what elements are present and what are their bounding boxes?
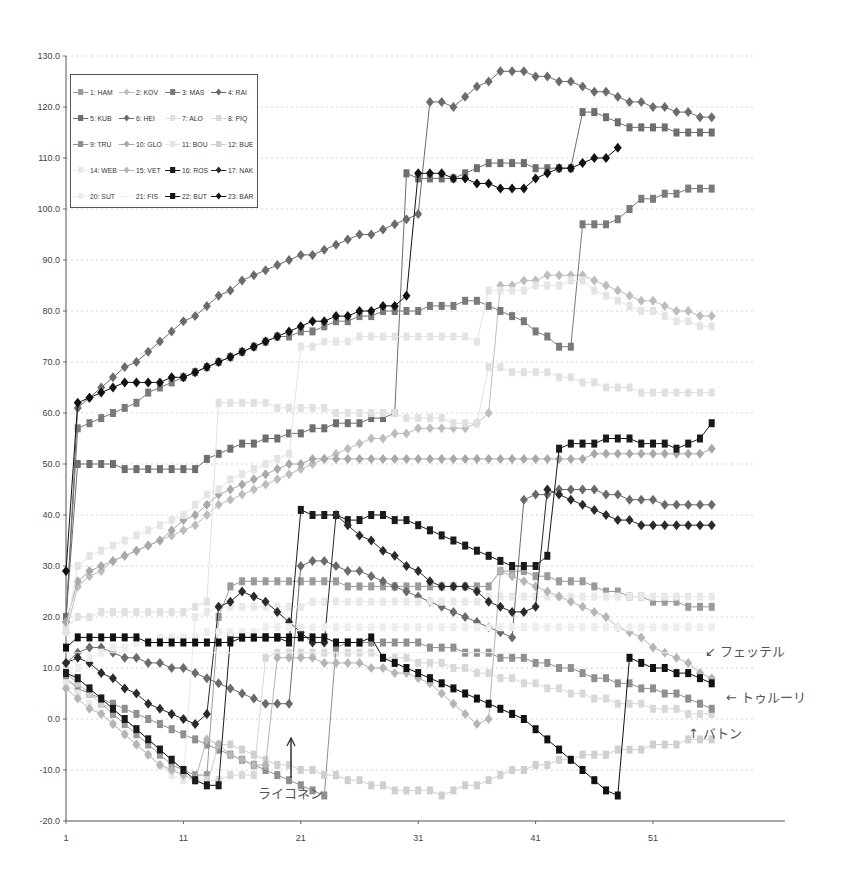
- y-tick-label: 60.0: [42, 408, 60, 418]
- x-tick-label: 1: [63, 833, 68, 843]
- y-tick-label: -20.0: [39, 816, 60, 826]
- legend-item: 10: GLO: [119, 131, 158, 157]
- y-tick-label: 40.0: [42, 510, 60, 520]
- y-tick-label: 10.0: [42, 663, 60, 673]
- x-tick-label: 51: [648, 833, 658, 843]
- series-but: [63, 633, 715, 799]
- legend-item: 23: BAR: [211, 183, 250, 209]
- legend-marker-icon: [211, 88, 226, 96]
- y-tick-label: 30.0: [42, 561, 60, 571]
- legend-item: 16: ROS: [165, 157, 204, 183]
- annotation-vettel: ↙ フェッテル: [705, 641, 785, 660]
- legend-item: 22: BUT: [165, 183, 204, 209]
- legend-marker-icon: [119, 140, 134, 148]
- y-tick-label: 50.0: [42, 459, 60, 469]
- legend-marker-icon: [211, 192, 226, 200]
- legend-item: 7: ALO: [165, 105, 204, 131]
- y-tick-label: 100.0: [37, 204, 60, 214]
- legend-label: 17: NAK: [228, 166, 253, 175]
- y-tick-label: 120.0: [37, 102, 60, 112]
- legend-marker-icon: [119, 88, 134, 96]
- legend-marker-icon: [119, 114, 134, 122]
- legend-grid: 1: HAM2: KOV3: MAS4: RAI5: KUB6: HEI7: A…: [71, 75, 257, 213]
- legend-item: 2: KOV: [119, 79, 158, 105]
- legend-label: 22: BUT: [182, 192, 207, 201]
- legend-marker-icon: [211, 114, 226, 122]
- legend-label: 10: GLO: [136, 140, 162, 149]
- legend-label: 23: BAR: [228, 192, 253, 201]
- y-tick-label: 130.0: [37, 51, 60, 61]
- legend-label: 12: BUE: [228, 140, 253, 149]
- y-tick-label: 90.0: [42, 255, 60, 265]
- series-nak: [62, 485, 716, 730]
- legend-item: 4: RAI: [211, 79, 250, 105]
- x-tick-label: 41: [531, 833, 541, 843]
- legend-label: 14: WEB: [90, 166, 117, 175]
- legend-marker-icon: [165, 114, 180, 122]
- legend-marker-icon: [73, 140, 88, 148]
- legend-marker-icon: [119, 192, 134, 200]
- legend-item: 15: VET: [119, 157, 158, 183]
- legend-marker-icon: [165, 88, 180, 96]
- legend-marker-icon: [165, 140, 180, 148]
- series-ros: [63, 419, 715, 789]
- y-tick-label: 0.0: [47, 714, 60, 724]
- y-tick-label: 80.0: [42, 306, 60, 316]
- legend-label: 21: FIS: [136, 192, 158, 201]
- legend-label: 5: KUB: [90, 114, 112, 123]
- legend-marker-icon: [73, 192, 88, 200]
- series-mas: [63, 185, 715, 621]
- legend-label: 8: PIQ: [228, 114, 247, 123]
- legend-item: 14: WEB: [73, 157, 112, 183]
- legend-label: 4: RAI: [228, 88, 247, 97]
- annotation-trulli: ← トゥルーリ: [726, 687, 806, 706]
- legend-label: 3: MAS: [182, 88, 204, 97]
- legend-label: 9: TRU: [90, 140, 111, 149]
- legend-item: 5: KUB: [73, 105, 112, 131]
- legend-label: 2: KOV: [136, 88, 158, 97]
- legend-marker-icon: [211, 166, 226, 174]
- legend-label: 20: SUT: [90, 192, 115, 201]
- legend-label: 6: HEI: [136, 114, 155, 123]
- legend-item: 12: BUE: [211, 131, 250, 157]
- legend-label: 15: VET: [136, 166, 161, 175]
- legend-item: 6: HEI: [119, 105, 158, 131]
- y-tick-label: 20.0: [42, 612, 60, 622]
- legend-marker-icon: [165, 166, 180, 174]
- x-tick-label: 11: [179, 833, 188, 843]
- legend-marker-icon: [119, 166, 134, 174]
- legend-item: 20: SUT: [73, 183, 112, 209]
- annotation-button: ↑ バトン: [688, 723, 742, 742]
- annotation-raikkonen: ライコネン: [258, 783, 323, 802]
- legend-marker-icon: [73, 114, 88, 122]
- legend-marker-icon: [165, 192, 180, 200]
- legend-marker-icon: [211, 140, 226, 148]
- y-tick-label: 70.0: [42, 357, 60, 367]
- legend-label: 1: HAM: [90, 88, 113, 97]
- legend-label: 11: BOU: [182, 140, 208, 149]
- legend-item: 17: NAK: [211, 157, 250, 183]
- legend-item: 3: MAS: [165, 79, 204, 105]
- x-tick-label: 21: [296, 833, 306, 843]
- series-bue: [63, 669, 715, 799]
- annotation-arrows: [287, 738, 295, 778]
- y-tick-label: -10.0: [39, 765, 60, 775]
- x-tick-label: 31: [413, 833, 423, 843]
- legend: 1: HAM2: KOV3: MAS4: RAI5: KUB6: HEI7: A…: [70, 74, 258, 208]
- legend-label: 16: ROS: [182, 166, 208, 175]
- legend-marker-icon: [73, 88, 88, 96]
- legend-item: 9: TRU: [73, 131, 112, 157]
- legend-item: 8: PIQ: [211, 105, 250, 131]
- legend-marker-icon: [73, 166, 88, 174]
- y-tick-label: 110.0: [38, 153, 60, 163]
- legend-label: 7: ALO: [182, 114, 203, 123]
- legend-item: 1: HAM: [73, 79, 112, 105]
- legend-item: 21: FIS: [119, 183, 158, 209]
- legend-item: 11: BOU: [165, 131, 204, 157]
